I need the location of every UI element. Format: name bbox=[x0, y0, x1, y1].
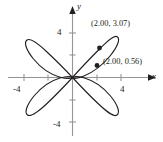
point-marker-2 bbox=[95, 63, 100, 68]
petal-upper-left bbox=[26, 39, 73, 78]
petal-lower-left bbox=[26, 77, 72, 116]
point-marker-1 bbox=[97, 46, 102, 51]
marked-points bbox=[95, 46, 102, 68]
y-axis-label: y bbox=[77, 2, 81, 11]
point-label-2: (2.00, 0.56) bbox=[103, 58, 142, 66]
x-axis-label: x bbox=[152, 72, 156, 81]
point-label-1: (2.00, 3.07) bbox=[91, 20, 130, 28]
graph-canvas bbox=[0, 0, 163, 142]
axis-arrowheads bbox=[69, 6, 156, 81]
y-tick-label-minus-4: -4 bbox=[53, 120, 61, 129]
axes-group bbox=[8, 14, 148, 136]
petal-lower-right bbox=[73, 77, 119, 116]
x-tick-label-minus-4: -4 bbox=[13, 85, 21, 94]
x-tick-label-4: 4 bbox=[120, 85, 125, 94]
y-axis-arrowhead bbox=[69, 6, 75, 14]
y-tick-label-4: 4 bbox=[57, 28, 62, 37]
